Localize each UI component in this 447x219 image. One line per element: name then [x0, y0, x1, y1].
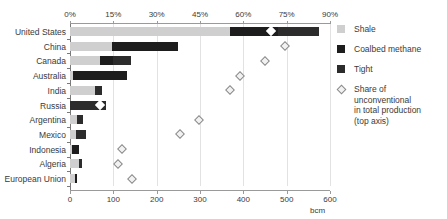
- shale-segment: [70, 115, 77, 124]
- category-label: Russia: [40, 100, 66, 112]
- bottom-axis: 0100200300400500600: [70, 191, 330, 207]
- top-axis-tick-label: 0%: [64, 10, 76, 19]
- bottom-axis-tick: [330, 191, 331, 194]
- chart-title: [70, 0, 330, 4]
- coalbed-methane-segment: [73, 71, 128, 80]
- top-axis: 0%15%30%45%60%75%90%: [70, 10, 330, 24]
- category-label: Australia: [33, 70, 66, 82]
- category-tick: [67, 112, 70, 113]
- category-label: Canada: [36, 55, 66, 67]
- category-tick: [67, 68, 70, 69]
- tight-segment: [113, 56, 130, 65]
- top-axis-tick-label: 75%: [279, 10, 295, 19]
- tight-segment: [76, 130, 87, 139]
- legend-item-share-of-unconventional[interactable]: Share of unconventional in total product…: [336, 84, 447, 126]
- gridline: [330, 24, 331, 186]
- bottom-axis-tick-label: 0: [68, 195, 72, 204]
- bottom-axis-unit-label: bcm: [310, 206, 325, 215]
- legend: Shale Coalbed methane Tight Share of unc…: [336, 24, 447, 135]
- category-tick: [67, 39, 70, 40]
- bottom-axis-tick-label: 500: [280, 195, 293, 204]
- shale-segment: [70, 56, 100, 65]
- top-axis-tick-label: 60%: [235, 10, 251, 19]
- shale-segment: [70, 27, 230, 36]
- bottom-axis-tick-label: 100: [107, 195, 120, 204]
- category-tick: [67, 142, 70, 143]
- diamond-marker-icon: [337, 85, 347, 95]
- coalbed-methane-segment: [75, 174, 77, 183]
- tight-segment: [278, 27, 319, 36]
- category-tick: [67, 157, 70, 158]
- bottom-axis-tick-label: 400: [237, 195, 250, 204]
- legend-label-share-line3: in total production: [354, 105, 421, 115]
- bottom-axis-tick-label: 200: [150, 195, 163, 204]
- bottom-axis-tick-label: 300: [193, 195, 206, 204]
- legend-label-share-line4: (top axis): [354, 116, 389, 126]
- coalbed-methane-segment: [112, 42, 178, 51]
- bottom-axis-tick: [113, 191, 114, 194]
- bottom-axis-tick: [243, 191, 244, 194]
- category-label: Argentina: [30, 114, 66, 126]
- legend-label-tight: Tight: [354, 64, 373, 74]
- coalbed-methane-segment: [100, 56, 113, 65]
- bottom-axis-tick-label: 600: [323, 195, 336, 204]
- category-label: United States: [15, 26, 66, 38]
- category-tick: [67, 171, 70, 172]
- bottom-axis-tick: [287, 191, 288, 194]
- category-label: Indonesia: [29, 144, 66, 156]
- tight-segment: [77, 115, 82, 124]
- category-label: China: [44, 41, 66, 53]
- legend-item-shale[interactable]: Shale: [336, 24, 447, 35]
- legend-label-share-line2: unconventional: [354, 95, 411, 105]
- shale-segment: [70, 42, 112, 51]
- category-tick: [67, 127, 70, 128]
- legend-label-shale: Shale: [354, 24, 376, 34]
- coalbed-methane-segment: [72, 145, 79, 154]
- category-tick: [67, 98, 70, 99]
- tight-segment: [95, 86, 102, 95]
- bottom-axis-tick: [70, 191, 71, 194]
- unconventional-gas-production-chart: 0%15%30%45%60%75%90% 0100200300400500600…: [0, 0, 447, 219]
- bottom-axis-tick: [200, 191, 201, 194]
- category-label: Mexico: [39, 129, 66, 141]
- category-tick: [67, 53, 70, 54]
- category-tick: [67, 186, 70, 187]
- bottom-axis-tick: [157, 191, 158, 194]
- category-tick: [67, 83, 70, 84]
- top-axis-tick-label: 15%: [105, 10, 121, 19]
- category-label: Algeria: [40, 158, 66, 170]
- coalbed-methane-swatch-icon: [337, 45, 345, 53]
- category-label: European Union: [5, 173, 66, 185]
- tight-swatch-icon: [337, 65, 345, 73]
- legend-item-coalbed-methane[interactable]: Coalbed methane: [336, 44, 447, 55]
- top-axis-tick-label: 30%: [149, 10, 165, 19]
- legend-label-coalbed-methane: Coalbed methane: [354, 44, 421, 54]
- top-axis-tick-label: 45%: [192, 10, 208, 19]
- legend-item-tight[interactable]: Tight: [336, 64, 447, 75]
- shale-segment: [70, 159, 79, 168]
- shale-segment: [70, 86, 95, 95]
- shale-swatch-icon: [337, 25, 345, 33]
- tight-segment: [79, 159, 82, 168]
- category-label: India: [48, 85, 66, 97]
- top-axis-tick-label: 90%: [322, 10, 338, 19]
- legend-label-share-line1: Share of: [354, 84, 386, 94]
